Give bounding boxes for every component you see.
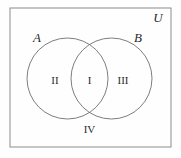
set-b-label: B [134,30,142,45]
set-a-circle [27,38,108,119]
set-a-label: A [32,30,41,45]
universal-set-label: U [153,10,164,25]
region-label-four: IV [84,123,96,135]
region-label-one: I [88,74,92,86]
region-label-two: II [51,74,59,86]
venn-diagram-canvas: U A B II I III IV [0,0,181,158]
venn-diagram-figure: U A B II I III IV [0,0,181,158]
set-b-circle [71,38,152,119]
region-label-three: III [118,74,129,86]
